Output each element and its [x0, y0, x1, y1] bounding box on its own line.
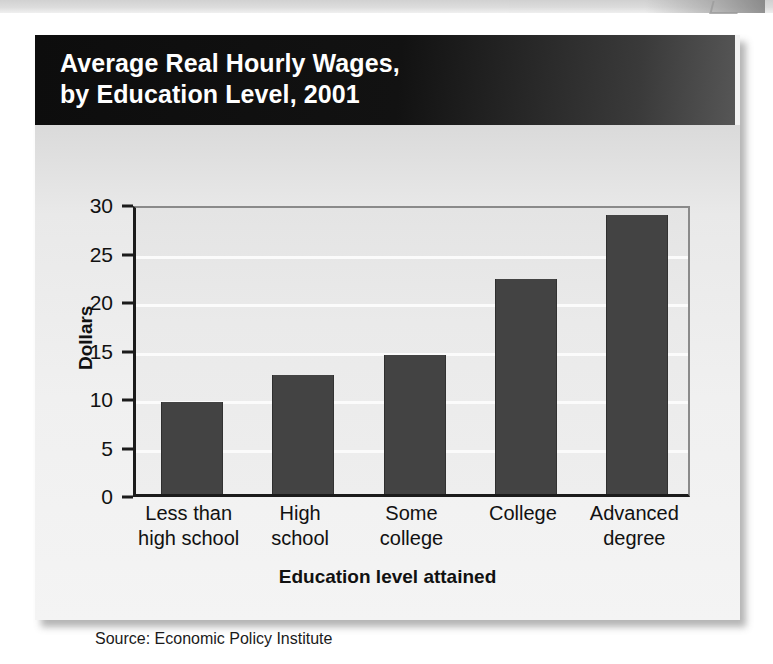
bar [606, 215, 668, 494]
y-axis-tick-mark [122, 350, 133, 353]
y-axis-tick-label: 5 [101, 437, 113, 461]
x-axis-tick-label-line-1: Less than [145, 502, 232, 524]
x-axis-tick-label-line-1: Some [385, 502, 437, 524]
x-axis-tick-label: Somecollege [356, 501, 467, 551]
y-axis-tick-label: 15 [90, 340, 113, 364]
x-axis-title: Education level attained [35, 566, 740, 588]
y-axis-tick-label: 20 [90, 291, 113, 315]
x-axis-tick-label: Less thanhigh school [133, 501, 244, 551]
bars-group [136, 208, 688, 494]
y-axis-tick-mark [122, 496, 133, 499]
x-axis-tick-label: College [467, 501, 578, 526]
x-axis-tick-label-line-1: High [280, 502, 321, 524]
y-axis-tick-mark [122, 253, 133, 256]
bar [384, 355, 446, 494]
scan-smudge [645, 0, 765, 13]
y-axis-tick-label: 25 [90, 243, 113, 267]
bar [161, 402, 223, 494]
x-axis-tick-label-line-2: college [356, 526, 467, 551]
x-axis-tick-label-line-1: Advanced [590, 502, 679, 524]
y-axis-tick-mark [122, 205, 133, 208]
x-axis-tick-label-line-2: degree [579, 526, 690, 551]
source-note: Source: Economic Policy Institute [95, 630, 332, 648]
chart-figure-card: Average Real Hourly Wages, by Education … [35, 35, 740, 620]
y-axis-tick-mark [122, 447, 133, 450]
scan-artifact-strip [0, 0, 773, 13]
y-axis-tick-label: 30 [90, 194, 113, 218]
plot-area [133, 206, 690, 497]
x-axis-tick-label-line-1: College [489, 502, 557, 524]
y-axis-tick-mark [122, 399, 133, 402]
chart-title-line-2: by Education Level, 2001 [60, 79, 735, 110]
chart-title-banner: Average Real Hourly Wages, by Education … [35, 35, 735, 125]
x-axis-tick-label: Highschool [244, 501, 355, 551]
x-axis-tick-label-line-2: school [244, 526, 355, 551]
x-axis-tick-label: Advanceddegree [579, 501, 690, 551]
scan-pen-mark-icon [709, 1, 740, 14]
bar [272, 375, 334, 494]
chart-plot-region: Dollars 051015202530 Less thanhigh schoo… [35, 125, 740, 620]
y-axis-tick-mark [122, 302, 133, 305]
chart-title-line-1: Average Real Hourly Wages, [60, 35, 735, 79]
y-axis-tick-label: 0 [101, 485, 113, 509]
bar [495, 279, 557, 494]
x-axis-tick-label-line-2: high school [133, 526, 244, 551]
y-axis-tick-label: 10 [90, 388, 113, 412]
